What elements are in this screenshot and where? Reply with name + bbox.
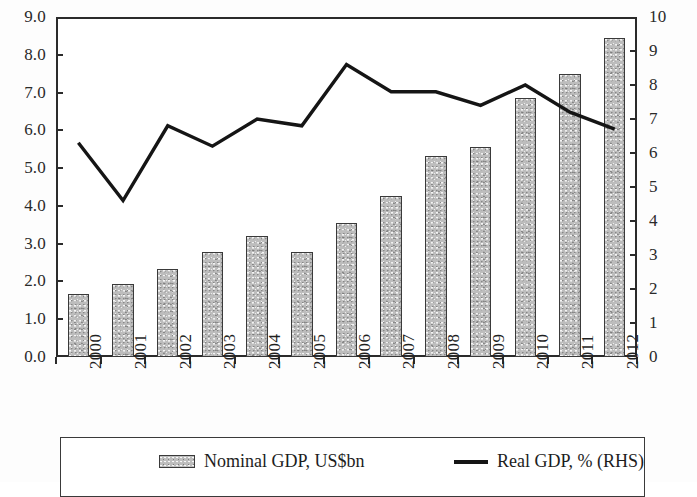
y-axis-left-tick-label: 0.0: [2, 348, 46, 365]
bar-2012: [604, 38, 625, 357]
y-axis-left-tick-label: 7.0: [2, 84, 46, 101]
y-axis-right-tick-label: 5: [649, 178, 679, 195]
y-axis-right-tick-label: 7: [649, 110, 679, 127]
y-axis-left-tick: [56, 280, 63, 282]
y-axis-right-tick-label: 9: [649, 42, 679, 59]
x-axis-label-2002: 2002: [176, 334, 196, 369]
y-axis-left-tick-label: 6.0: [2, 121, 46, 138]
y-axis-right-tick: [630, 254, 637, 256]
y-axis-left-tick: [56, 205, 63, 207]
y-axis-left-tick: [56, 243, 63, 245]
legend-item-real-gdp: Real GDP, % (RHS): [454, 451, 644, 472]
x-axis-label-2008: 2008: [444, 334, 464, 369]
y-axis-right-tick-label: 0: [649, 348, 679, 365]
y-axis-left-tick-label: 9.0: [2, 8, 46, 25]
y-axis-right-tick: [630, 50, 637, 52]
bar-2010: [515, 98, 536, 357]
y-axis-right-tick: [630, 288, 637, 290]
bar-2009: [470, 147, 491, 357]
y-axis-right-tick-label: 10: [649, 8, 679, 25]
y-axis-left-tick-label: 2.0: [2, 272, 46, 289]
y-axis-right-tick-label: 1: [649, 314, 679, 331]
chart-legend: Nominal GDP, US$bn Real GDP, % (RHS): [60, 437, 645, 497]
y-axis-left-tick: [56, 54, 63, 56]
y-axis-right-tick-label: 2: [649, 280, 679, 297]
x-axis-label-2011: 2011: [578, 334, 598, 369]
y-axis-left-tick: [56, 92, 63, 94]
y-axis-right-tick: [630, 118, 637, 120]
y-axis-left-tick-label: 4.0: [2, 197, 46, 214]
legend-label-real-gdp: Real GDP, % (RHS): [497, 451, 644, 472]
y-axis-left-tick-label: 8.0: [2, 46, 46, 63]
y-axis-left-tick: [56, 318, 63, 320]
y-axis-right-tick-label: 4: [649, 212, 679, 229]
legend-bar-swatch-icon: [159, 455, 195, 468]
x-axis-label-2003: 2003: [220, 334, 240, 369]
y-axis-right-tick: [630, 152, 637, 154]
y-axis-right-tick-label: 8: [649, 76, 679, 93]
y-axis-right-tick-label: 6: [649, 144, 679, 161]
legend-label-nominal-gdp: Nominal GDP, US$bn: [204, 451, 365, 472]
x-axis-label-2007: 2007: [399, 334, 419, 369]
x-axis-label-2000: 2000: [86, 334, 106, 369]
x-axis-label-2005: 2005: [310, 334, 330, 369]
y-axis-left-tick: [56, 167, 63, 169]
y-axis-right-tick: [630, 322, 637, 324]
x-axis-label-2012: 2012: [623, 334, 643, 369]
y-axis-right-tick: [630, 84, 637, 86]
x-axis-label-2010: 2010: [533, 334, 553, 369]
y-axis-left-tick: [56, 129, 63, 131]
x-axis-label-2004: 2004: [265, 334, 285, 369]
bar-2008: [425, 156, 446, 357]
bar-2006: [336, 223, 357, 357]
x-axis-label-2001: 2001: [131, 334, 151, 369]
y-axis-right-tick: [630, 186, 637, 188]
y-axis-left-tick-label: 1.0: [2, 310, 46, 327]
x-axis-label-2006: 2006: [355, 334, 375, 369]
x-axis-tick: [55, 357, 57, 364]
x-axis-label-2009: 2009: [489, 334, 509, 369]
y-axis-right-tick: [630, 220, 637, 222]
legend-item-nominal-gdp: Nominal GDP, US$bn: [159, 451, 365, 472]
legend-line-swatch-icon: [454, 460, 488, 464]
y-axis-left-tick-label: 3.0: [2, 235, 46, 252]
bar-2011: [559, 74, 580, 357]
y-axis-left-tick-label: 5.0: [2, 159, 46, 176]
y-axis-right-tick-label: 3: [649, 246, 679, 263]
